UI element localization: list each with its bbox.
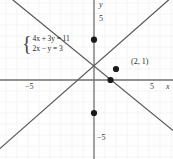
equation-one: 4x + 3y = 11 [33,34,70,43]
y-tick-negative-5: −5 [97,134,106,142]
x-tick-positive-5: 5 [150,83,154,91]
equation-list: 4x + 3y = 11 2x − y = 3 [33,34,70,53]
brace-glyph: { [22,35,32,51]
point-y-intercept-line1 [91,37,97,43]
x-axis-label: x [166,83,170,91]
point-y-intercept-line2 [91,110,97,116]
solution-point-label: (2, 1) [131,58,148,66]
coordinate-plane [0,0,173,159]
system-of-equations: { 4x + 3y = 11 2x − y = 3 [22,34,70,53]
graph-figure: y 5 −5 −5 5 x (2, 1) { 4x + 3y = 11 2x −… [0,0,173,159]
point-intersection [113,66,119,72]
y-axis-label: y [99,1,103,9]
equation-two: 2x − y = 3 [33,44,70,53]
y-tick-positive-5: 5 [99,15,103,23]
x-tick-negative-5: −5 [25,83,34,91]
point-x-intercept-line2 [107,77,113,83]
